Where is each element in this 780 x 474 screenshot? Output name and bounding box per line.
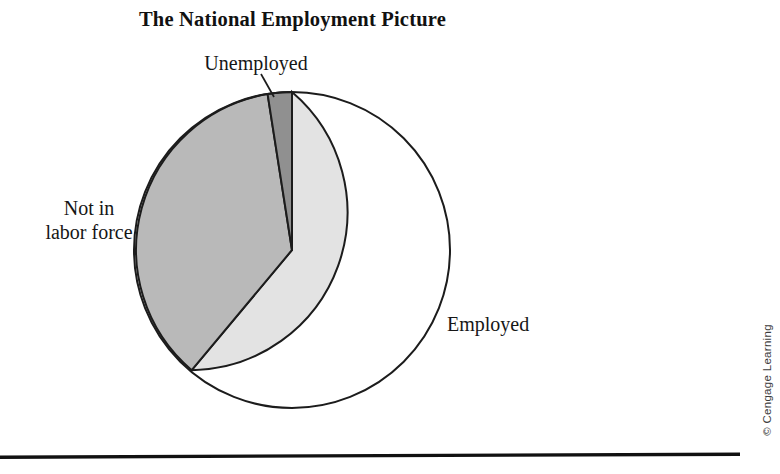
horizontal-rule [0,454,740,457]
credit-container: © Cengage Learning [758,300,776,460]
copyright-credit: © Cengage Learning [761,324,773,436]
pie-label-unemployed: Unemployed [186,52,326,76]
pie-label-not-in-labor-force: Not in labor force [14,196,164,245]
pie-label-not-in-labor-force-line1: Not in [64,197,115,219]
figure-root: The National Employment Picture Unemploy… [0,0,780,474]
pie-label-not-in-labor-force-line2: labor force [14,220,164,244]
bottom-divider [0,446,780,464]
pie-label-employed: Employed [447,313,529,337]
